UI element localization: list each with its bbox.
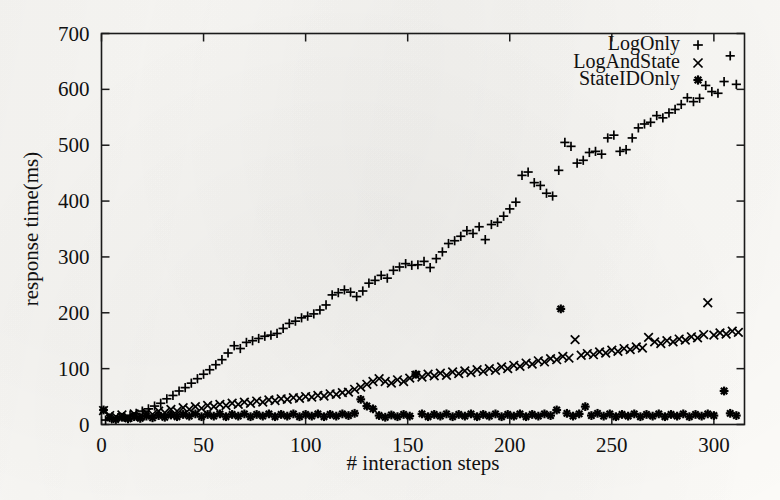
data-point-plus [303,312,312,321]
data-point-plus [285,319,294,328]
y-tick-label: 200 [58,301,90,325]
x-tick-label: 250 [596,433,628,457]
data-point-plus [693,40,703,50]
data-point-plus [279,324,288,333]
data-point-plus [456,232,465,241]
data-point-plus [481,235,490,244]
data-point-star [99,406,108,415]
data-point-plus [701,81,710,90]
data-point-star [575,409,584,418]
data-point-plus [499,212,508,221]
data-point-plus [438,247,447,256]
data-point-plus [193,374,202,383]
chart-page: 0100200300400500600700 05010015020025030… [0,0,780,500]
chart-legend: LogOnlyLogAndStateStateIDOnly [573,32,702,90]
data-point-plus [346,288,355,297]
data-point-plus [475,222,484,231]
x-tick-label: 0 [96,433,107,457]
y-tick-label: 700 [58,22,90,46]
data-point-plus [205,365,214,374]
data-point-plus [677,100,686,109]
legend-label-stateidonly: StateIDOnly [579,67,680,90]
x-tick-label: 50 [193,433,214,457]
data-point-plus [658,113,667,122]
data-point-plus [652,111,661,120]
data-point-plus [713,89,722,98]
data-point-cross [734,328,743,337]
data-point-plus [628,133,637,142]
data-point-plus [622,145,631,154]
data-point-plus [732,80,741,89]
data-point-cross [271,396,280,405]
data-point-plus [432,254,441,263]
x-tick-label: 100 [290,433,322,457]
data-point-star [581,402,590,411]
data-point-plus [254,334,263,343]
data-point-plus [260,332,269,341]
data-point-cross [565,354,574,363]
y-tick-label: 500 [58,133,90,157]
y-tick-label: 0 [79,413,90,437]
response-time-scatter-chart: 0100200300400500600700 05010015020025030… [0,0,780,500]
data-point-plus [187,379,196,388]
y-axis-title: response time(ms) [19,152,43,307]
data-point-plus [554,166,563,175]
data-point-plus [248,336,257,345]
data-point-star [693,75,702,84]
data-point-plus [358,286,367,295]
data-point-plus [352,292,361,301]
data-point-cross [577,351,586,360]
data-point-plus [199,370,208,379]
plot-frame [102,34,745,425]
data-point-star [411,370,420,379]
data-point-star [556,304,565,313]
data-point-plus [646,118,655,127]
data-point-plus [511,198,520,207]
data-point-cross [650,338,659,347]
data-point-plus [328,290,337,299]
data-point-star [369,404,378,413]
series-logonly-points [101,51,741,424]
data-point-cross [638,344,647,353]
y-tick-label: 100 [58,357,90,381]
y-tick-label: 300 [58,245,90,269]
data-point-plus [217,355,226,364]
data-point-plus [719,77,728,86]
data-point-plus [615,147,624,156]
data-point-cross [283,395,292,404]
data-point-plus [321,300,330,309]
data-point-plus [272,329,281,338]
x-axis-title: # interaction steps [347,451,500,475]
data-point-plus [242,338,251,347]
data-point-star [732,411,741,420]
data-point-star [356,395,365,404]
y-tick-label: 400 [58,189,90,213]
data-point-plus [487,220,496,229]
data-point-plus [426,263,435,272]
data-point-plus [211,360,220,369]
data-point-cross [644,333,653,342]
data-point-plus [493,218,502,227]
data-point-cross [693,58,702,67]
data-point-star [709,411,718,420]
data-point-star [720,387,729,396]
data-point-cross [332,390,341,399]
data-point-plus [585,148,594,157]
data-point-star [405,412,414,421]
axis-tick-marks [102,34,745,425]
y-tick-label: 600 [58,77,90,101]
data-point-plus [505,204,514,213]
data-point-plus [707,87,716,96]
x-tick-label: 300 [698,433,730,457]
data-point-cross [703,298,712,307]
data-point-cross [571,335,580,344]
data-point-cross [295,394,304,403]
y-axis-tick-labels: 0100200300400500600700 [58,22,90,437]
series-logandstate-points [99,298,742,421]
data-point-star [350,409,359,418]
data-point-plus [223,348,232,357]
data-point-star [552,406,561,415]
data-point-plus [266,331,275,340]
data-point-cross [307,393,316,402]
data-point-plus [726,51,735,60]
